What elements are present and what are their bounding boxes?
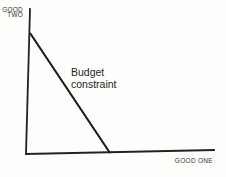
x-axis-label: GOOD ONE bbox=[175, 157, 213, 164]
budget-constraint-line bbox=[30, 33, 110, 153]
budget-constraint-figure: GOOD TWO Budget constraint GOOD ONE bbox=[0, 0, 226, 177]
y-axis-label: GOOD TWO bbox=[0, 7, 23, 18]
x-axis-line bbox=[26, 150, 214, 154]
budget-constraint-annotation: Budget constraint bbox=[71, 66, 117, 90]
y-axis-line bbox=[26, 9, 30, 154]
